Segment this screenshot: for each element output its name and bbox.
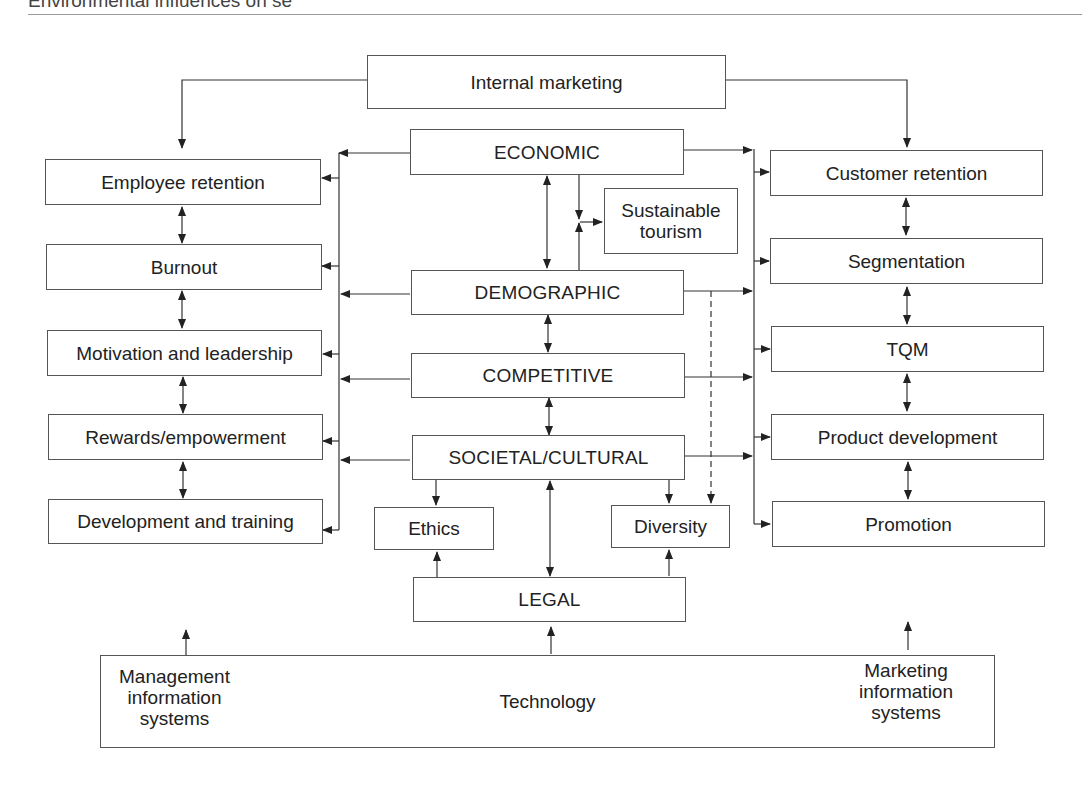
legal-box: LEGAL: [413, 577, 686, 622]
rewards-empowerment-box: Rewards/empowerment: [48, 414, 323, 460]
societal-cultural-box: SOCIETAL/CULTURAL: [412, 435, 685, 480]
legal-label: LEGAL: [518, 589, 580, 610]
employee-retention-box: Employee retention: [45, 159, 321, 205]
demographic-label: DEMOGRAPHIC: [475, 282, 621, 303]
tqm-label: TQM: [886, 339, 928, 360]
employee-retention-label: Employee retention: [101, 172, 265, 193]
customer-retention-label: Customer retention: [826, 163, 988, 184]
diversity-box: Diversity: [611, 505, 730, 548]
burnout-box: Burnout: [46, 244, 322, 290]
diversity-label: Diversity: [634, 516, 707, 537]
economic-label: ECONOMIC: [494, 142, 600, 163]
promotion-box: Promotion: [772, 501, 1045, 547]
competitive-label: COMPETITIVE: [483, 365, 614, 386]
demographic-box: DEMOGRAPHIC: [411, 270, 684, 315]
technology-label: Technology: [499, 691, 595, 712]
societal-cultural-label: SOCIETAL/CULTURAL: [448, 447, 648, 468]
segmentation-box: Segmentation: [770, 238, 1043, 284]
internal-marketing-label: Internal marketing: [470, 72, 622, 93]
internal-marketing-box: Internal marketing: [367, 55, 726, 109]
sustainable-tourism-label: Sustainable tourism: [616, 200, 726, 242]
promotion-label: Promotion: [865, 514, 952, 535]
development-training-label: Development and training: [77, 511, 294, 532]
motivation-leadership-label: Motivation and leadership: [76, 343, 293, 364]
economic-box: ECONOMIC: [410, 129, 684, 175]
customer-retention-box: Customer retention: [770, 150, 1043, 196]
product-development-label: Product development: [818, 427, 998, 448]
competitive-box: COMPETITIVE: [411, 353, 685, 398]
management-information-systems-label: Management information systems: [112, 666, 237, 729]
development-training-box: Development and training: [48, 499, 323, 544]
product-development-box: Product development: [771, 414, 1044, 460]
burnout-label: Burnout: [151, 257, 218, 278]
marketing-information-systems-label: Marketing information systems: [846, 660, 966, 723]
sustainable-tourism-box: Sustainable tourism: [604, 188, 738, 254]
ethics-box: Ethics: [374, 507, 494, 550]
rewards-empowerment-label: Rewards/empowerment: [85, 427, 286, 448]
segmentation-label: Segmentation: [848, 251, 965, 272]
tqm-box: TQM: [771, 326, 1044, 372]
motivation-leadership-box: Motivation and leadership: [47, 330, 322, 376]
ethics-label: Ethics: [408, 518, 460, 539]
